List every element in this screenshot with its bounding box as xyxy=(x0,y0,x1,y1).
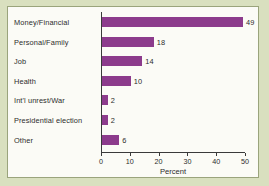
bar xyxy=(102,37,154,47)
bar xyxy=(102,95,108,105)
x-tick-label: 40 xyxy=(212,157,220,166)
category-label: Presidential election xyxy=(14,116,98,125)
bar-value-label: 14 xyxy=(145,57,153,66)
bar-value-label: 2 xyxy=(111,96,115,105)
x-axis-title: Percent xyxy=(160,167,186,176)
x-axis-line xyxy=(101,152,245,153)
category-label: Money/Financial xyxy=(14,18,98,27)
bar xyxy=(102,135,119,145)
x-tick-mark xyxy=(187,153,188,156)
category-label: Int'l unrest/War xyxy=(14,96,98,105)
bar-value-label: 2 xyxy=(111,116,115,125)
bar-value-label: 10 xyxy=(134,76,142,85)
category-label: Health xyxy=(14,76,98,85)
x-tick-mark xyxy=(159,153,160,156)
bar-value-label: 49 xyxy=(246,18,254,27)
x-tick-label: 30 xyxy=(183,157,191,166)
x-tick-mark xyxy=(216,153,217,156)
x-tick-mark xyxy=(130,153,131,156)
x-tick-mark xyxy=(101,153,102,156)
category-label: Personal/Family xyxy=(14,37,98,46)
bar xyxy=(102,76,131,86)
x-tick-label: 10 xyxy=(126,157,134,166)
bar-value-label: 18 xyxy=(157,37,165,46)
bar-value-label: 6 xyxy=(122,135,126,144)
bar xyxy=(102,115,108,125)
chart-figure: Money/Financial49Personal/Family18Job14H… xyxy=(0,0,269,186)
category-label: Other xyxy=(14,135,98,144)
x-tick-label: 20 xyxy=(155,157,163,166)
category-label: Job xyxy=(14,57,98,66)
x-tick-label: 50 xyxy=(241,157,249,166)
bar xyxy=(102,17,243,27)
chart-plot-area: Money/Financial49Personal/Family18Job14H… xyxy=(0,0,269,186)
x-tick-mark xyxy=(245,153,246,156)
x-tick-label: 0 xyxy=(99,157,103,166)
bar xyxy=(102,56,142,66)
